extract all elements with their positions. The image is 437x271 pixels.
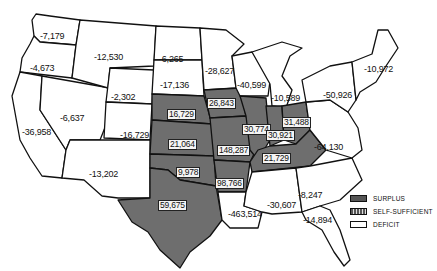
value-label-wisconsin: -40,599 bbox=[237, 80, 266, 90]
value-label-missouri: 148,287 bbox=[217, 145, 250, 156]
value-label-nevada-utah: -6,637 bbox=[60, 113, 84, 123]
value-label-south-dakota: -17,136 bbox=[160, 80, 189, 90]
value-label-new-england: -10,972 bbox=[364, 64, 393, 74]
value-label-indiana: 30,921 bbox=[266, 130, 295, 141]
region-south-dakota bbox=[152, 60, 204, 96]
legend-item-surplus: SURPLUS bbox=[350, 192, 433, 205]
region-kansas bbox=[150, 120, 214, 156]
legend-label: DEFICIT bbox=[373, 221, 400, 228]
value-label-colorado: -16,729 bbox=[120, 130, 149, 140]
value-label-arizona-new-mexico: -13,202 bbox=[89, 169, 118, 179]
value-label-idaho-montana: -12,530 bbox=[94, 52, 123, 62]
value-label-california: -36,958 bbox=[22, 127, 51, 137]
legend-label: SURPLUS bbox=[373, 195, 405, 202]
deficit-swatch-icon bbox=[350, 221, 367, 228]
value-label-michigan: -10,589 bbox=[271, 93, 300, 103]
legend: SURPLUS SELF-SUFFICIENT DEFICIT bbox=[350, 192, 433, 231]
value-label-new-york-mid-atlantic: -50,926 bbox=[323, 90, 352, 100]
value-label-kansas: 21,064 bbox=[168, 139, 197, 150]
value-label-minnesota: -28,627 bbox=[205, 66, 234, 76]
value-label-oregon: -4,673 bbox=[30, 63, 54, 73]
surplus-swatch-icon bbox=[350, 195, 367, 202]
value-label-texas: 59,675 bbox=[158, 200, 187, 211]
self-sufficient-swatch-icon bbox=[350, 208, 367, 215]
value-label-north-dakota: -6,265 bbox=[159, 54, 183, 64]
value-label-florida: -14,894 bbox=[303, 215, 332, 225]
value-label-kentucky-tennessee: 21,729 bbox=[262, 153, 291, 164]
legend-item-deficit: DEFICIT bbox=[350, 218, 433, 231]
value-label-virginia-east: -64,130 bbox=[314, 142, 343, 152]
value-label-iowa: 26,843 bbox=[207, 98, 236, 109]
value-label-mississippi-alabama: -30,607 bbox=[267, 200, 296, 210]
value-label-wyoming: -2,302 bbox=[111, 92, 135, 102]
value-label-louisiana: -463,514 bbox=[228, 209, 262, 219]
value-label-arkansas: 98,766 bbox=[215, 178, 244, 189]
value-label-washington: -7,179 bbox=[40, 31, 64, 41]
value-label-nebraska: 16,729 bbox=[167, 109, 196, 120]
legend-label: SELF-SUFFICIENT bbox=[373, 208, 433, 215]
value-label-ohio: 31,488 bbox=[282, 117, 311, 128]
value-label-georgia-carolinas: -8,247 bbox=[298, 190, 322, 200]
value-label-oklahoma: 9,978 bbox=[176, 167, 200, 178]
legend-item-self-sufficient: SELF-SUFFICIENT bbox=[350, 205, 433, 218]
